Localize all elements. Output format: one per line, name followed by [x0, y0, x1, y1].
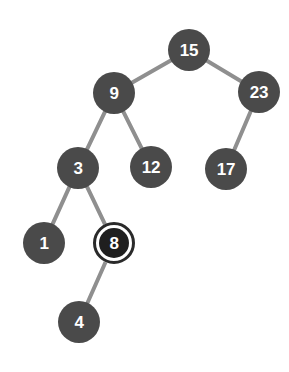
- binary-tree-diagram: 1592331217184: [0, 0, 289, 372]
- tree-node-1[interactable]: 1: [23, 222, 65, 264]
- tree-node-label: 8: [109, 235, 118, 252]
- tree-node-23[interactable]: 23: [238, 71, 280, 113]
- tree-node-label: 15: [180, 42, 198, 59]
- tree-node-4[interactable]: 4: [58, 301, 100, 343]
- tree-node-label: 4: [74, 314, 83, 331]
- tree-node-label: 12: [142, 159, 160, 176]
- tree-node-label: 23: [250, 84, 268, 101]
- tree-node-label: 17: [217, 161, 235, 178]
- tree-node-17[interactable]: 17: [205, 148, 247, 190]
- tree-node-label: 9: [109, 85, 118, 102]
- tree-node-3[interactable]: 3: [57, 147, 99, 189]
- tree-node-8[interactable]: 8: [93, 222, 135, 264]
- tree-node-label: 3: [73, 160, 82, 177]
- tree-node-15[interactable]: 15: [168, 29, 210, 71]
- tree-node-9[interactable]: 9: [93, 72, 135, 114]
- tree-node-layer: 1592331217184: [0, 0, 289, 372]
- tree-node-12[interactable]: 12: [130, 146, 172, 188]
- tree-node-label: 1: [39, 235, 48, 252]
